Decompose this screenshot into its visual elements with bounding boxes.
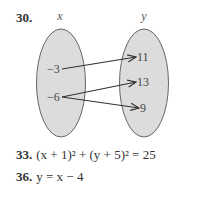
problem-36: 36.y = x − 4 (16, 169, 83, 185)
problem-33: 33.(x + 1)² + (y + 5)² = 25 (16, 147, 156, 163)
range-value: 9 (140, 101, 146, 115)
problem-36-number: 36. (16, 169, 32, 184)
range-value: 11 (137, 50, 149, 64)
problem-33-number: 33. (16, 147, 32, 162)
domain-value: −3 (47, 62, 60, 76)
domain-label: x (56, 9, 63, 23)
mapping-diagram: x y −3 −6 11 13 9 (0, 0, 212, 145)
problem-33-equation: (x + 1)² + (y + 5)² = 25 (36, 147, 155, 162)
range-value: 13 (137, 75, 149, 89)
problem-36-equation: y = x − 4 (36, 169, 83, 184)
range-label: y (140, 9, 147, 23)
domain-value: −6 (47, 90, 60, 104)
domain-ellipse (37, 29, 86, 137)
